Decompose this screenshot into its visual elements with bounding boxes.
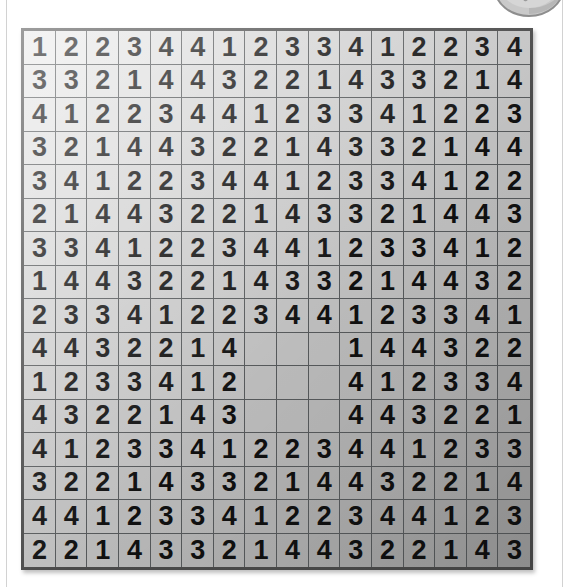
grid-cell[interactable]: 2 [498,165,530,199]
grid-cell[interactable]: 4 [340,366,372,400]
grid-cell[interactable]: 1 [277,467,309,501]
grid-cell[interactable]: 4 [498,65,530,99]
grid-cell[interactable]: 1 [467,232,499,266]
grid-cell[interactable]: 4 [467,299,499,333]
grid-cell[interactable]: 4 [24,400,56,434]
grid-cell[interactable]: 3 [404,400,436,434]
grid-cell[interactable]: 2 [119,400,151,434]
grid-cell[interactable]: 2 [498,232,530,266]
grid-cell[interactable]: 4 [435,266,467,300]
grid-cell[interactable]: 1 [87,500,119,534]
grid-cell[interactable]: 2 [498,333,530,367]
grid-cell[interactable]: 2 [435,433,467,467]
grid-cell[interactable]: 4 [87,232,119,266]
grid-cell[interactable]: 2 [56,467,88,501]
grid-cell[interactable]: 4 [340,467,372,501]
grid-cell-empty[interactable] [309,366,341,400]
grid-cell[interactable]: 1 [435,132,467,166]
grid-cell[interactable]: 1 [309,232,341,266]
grid-cell[interactable]: 4 [214,98,246,132]
grid-cell[interactable]: 3 [87,366,119,400]
grid-cell[interactable]: 2 [277,500,309,534]
grid-cell[interactable]: 3 [372,467,404,501]
grid-cell[interactable]: 2 [340,266,372,300]
grid-cell[interactable]: 2 [214,199,246,233]
grid-cell[interactable]: 4 [182,65,214,99]
grid-cell[interactable]: 2 [182,232,214,266]
grid-cell[interactable]: 4 [277,534,309,568]
grid-cell[interactable]: 3 [498,534,530,568]
grid-cell[interactable]: 4 [182,98,214,132]
grid-cell[interactable]: 3 [340,500,372,534]
grid-cell[interactable]: 1 [372,366,404,400]
grid-cell-empty[interactable] [245,400,277,434]
grid-cell[interactable]: 1 [277,165,309,199]
grid-cell[interactable]: 3 [119,433,151,467]
grid-cell[interactable]: 3 [151,534,183,568]
grid-cell[interactable]: 3 [24,232,56,266]
grid-cell[interactable]: 4 [245,232,277,266]
grid-cell[interactable]: 4 [24,500,56,534]
grid-cell[interactable]: 4 [467,199,499,233]
grid-cell[interactable]: 3 [182,467,214,501]
grid-cell[interactable]: 3 [372,65,404,99]
grid-cell[interactable]: 3 [151,500,183,534]
grid-cell[interactable]: 1 [56,199,88,233]
grid-cell[interactable]: 2 [87,98,119,132]
grid-cell[interactable]: 4 [372,400,404,434]
grid-cell[interactable]: 4 [372,98,404,132]
grid-cell[interactable]: 2 [182,299,214,333]
grid-cell[interactable]: 4 [24,98,56,132]
grid-cell[interactable]: 3 [56,400,88,434]
grid-cell[interactable]: 1 [119,467,151,501]
grid-cell[interactable]: 3 [309,266,341,300]
grid-cell[interactable]: 4 [404,266,436,300]
grid-cell[interactable]: 4 [435,199,467,233]
grid-cell[interactable]: 2 [151,266,183,300]
grid-cell[interactable]: 2 [404,132,436,166]
grid-cell[interactable]: 3 [498,98,530,132]
grid-cell[interactable]: 2 [182,199,214,233]
grid-cell[interactable]: 3 [309,98,341,132]
grid-cell[interactable]: 2 [87,31,119,65]
grid-cell[interactable]: 2 [182,266,214,300]
grid-cell[interactable]: 4 [372,500,404,534]
grid-cell[interactable]: 3 [24,467,56,501]
grid-cell[interactable]: 3 [56,232,88,266]
grid-cell[interactable]: 4 [340,65,372,99]
grid-cell[interactable]: 4 [340,400,372,434]
grid-cell-empty[interactable] [277,333,309,367]
grid-cell[interactable]: 1 [245,534,277,568]
grid-cell[interactable]: 4 [372,333,404,367]
grid-cell[interactable]: 4 [182,31,214,65]
grid-cell[interactable]: 1 [435,500,467,534]
grid-cell[interactable]: 2 [435,31,467,65]
grid-cell[interactable]: 1 [182,366,214,400]
grid-cell[interactable]: 2 [151,333,183,367]
grid-cell[interactable]: 4 [182,433,214,467]
grid-cell[interactable]: 2 [467,400,499,434]
grid-cell[interactable]: 4 [404,165,436,199]
grid-cell[interactable]: 2 [309,165,341,199]
grid-cell[interactable]: 1 [151,299,183,333]
grid-cell[interactable]: 1 [24,366,56,400]
grid-cell[interactable]: 3 [309,31,341,65]
grid-cell[interactable]: 2 [435,400,467,434]
grid-cell-empty[interactable] [277,366,309,400]
grid-cell[interactable]: 4 [56,500,88,534]
grid-cell[interactable]: 4 [87,266,119,300]
grid-cell[interactable]: 1 [182,333,214,367]
grid-cell[interactable]: 1 [151,400,183,434]
grid-cell[interactable]: 1 [87,534,119,568]
grid-cell[interactable]: 1 [87,165,119,199]
grid-cell[interactable]: 4 [151,65,183,99]
grid-cell[interactable]: 1 [404,98,436,132]
grid-cell[interactable]: 3 [214,400,246,434]
grid-cell[interactable]: 4 [277,232,309,266]
grid-cell[interactable]: 2 [214,366,246,400]
grid-cell[interactable]: 2 [245,65,277,99]
grid-cell[interactable]: 2 [404,366,436,400]
grid-cell[interactable]: 2 [467,98,499,132]
grid-cell[interactable]: 2 [340,232,372,266]
grid-cell[interactable]: 3 [182,132,214,166]
